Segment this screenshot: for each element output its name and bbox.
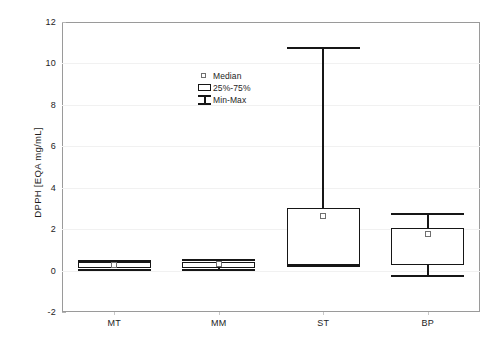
max-whisker-cap [391,213,464,215]
y-tick-label: 10 [46,58,56,68]
y-tick-label: 0 [51,266,56,276]
x-tick-label-st: ST [317,318,329,328]
min-whisker-cap [182,269,255,271]
y-gridline [62,271,480,272]
min-whisker-cap [391,275,464,277]
legend-label-minmax: Min-Max [213,95,246,105]
y-tick-label: 12 [46,17,56,27]
y-axis-tick-labels: 121086420-2 [30,0,56,350]
y-tick-label: -2 [48,307,56,317]
quartile-box-icon [197,82,213,94]
x-tick-mark [323,312,324,315]
boxplot-chart: DPPH [EQA mg/mL] 121086420-2 MTMMSTBP Me… [0,0,501,350]
legend-label-median: Median [213,71,241,81]
median-marker [111,262,117,268]
legend-item-minmax: Min-Max [197,94,283,106]
median-square-icon [197,70,213,82]
min-whisker-cap [78,269,151,271]
x-tick-label-mt: MT [107,318,121,328]
y-tick-mark [62,312,66,313]
median-marker [320,213,326,219]
max-whisker-cap [287,47,360,49]
y-tick-label: 2 [51,224,56,234]
upper-whisker-line [322,48,324,209]
y-gridline [62,188,480,189]
legend-item-median: Median [197,70,283,82]
chart-legend: Median 25%-75% Min-Max [197,70,283,106]
upper-whisker-line [427,214,429,228]
x-tick-label-mm: MM [211,318,227,328]
y-tick-label: 6 [51,141,56,151]
y-tick-label: 8 [51,100,56,110]
median-marker [425,231,431,237]
x-tick-mark [219,312,220,315]
y-gridline [62,63,480,64]
x-tick-mark [114,312,115,315]
y-tick-mark [62,22,66,23]
y-tick-label: 4 [51,183,56,193]
legend-label-quartile: 25%-75% [213,83,251,93]
legend-item-quartile: 25%-75% [197,82,283,94]
minmax-whisker-icon [197,94,213,106]
x-tick-label-bp: BP [421,318,434,328]
median-marker [216,261,222,267]
min-whisker-cap [287,265,360,267]
x-tick-mark [428,312,429,315]
y-gridline [62,146,480,147]
